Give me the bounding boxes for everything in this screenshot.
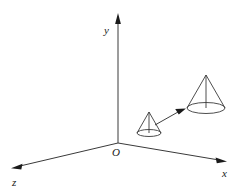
x-axis-group: x bbox=[118, 143, 227, 179]
z-axis-group: z bbox=[11, 143, 118, 188]
y-axis-group: y bbox=[103, 13, 121, 143]
coordinate-axes-figure: y x z O bbox=[0, 0, 239, 191]
translation-arrow-shaft bbox=[155, 112, 178, 125]
x-axis-label: x bbox=[221, 167, 227, 179]
x-axis-arrowhead bbox=[216, 157, 227, 163]
figure-canvas: y x z O bbox=[0, 0, 239, 191]
z-axis-label: z bbox=[11, 176, 17, 188]
y-axis-label: y bbox=[103, 24, 109, 36]
y-axis-arrowhead bbox=[115, 13, 121, 24]
small-cone bbox=[137, 112, 161, 137]
x-axis-line bbox=[118, 143, 219, 160]
origin-label: O bbox=[112, 146, 120, 158]
translation-arrowhead bbox=[175, 108, 186, 114]
large-cone bbox=[187, 75, 225, 114]
translation-arrow bbox=[155, 108, 186, 125]
z-axis-line bbox=[20, 143, 118, 166]
z-axis-arrowhead bbox=[11, 164, 23, 170]
